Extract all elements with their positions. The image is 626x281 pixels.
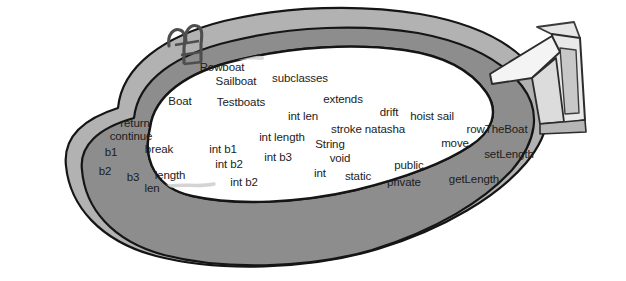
pool-word: int b2 xyxy=(215,159,243,171)
pool-word: break xyxy=(145,144,173,156)
pool-word: Boat xyxy=(168,96,191,108)
pool-word: continue xyxy=(110,131,153,143)
pool-word: Rowboat xyxy=(200,62,245,74)
pool-word: rowTheBoat xyxy=(466,124,527,136)
pool-word: private xyxy=(387,177,421,189)
pool-word: String xyxy=(315,139,344,151)
pool-word: stroke natasha xyxy=(331,124,405,136)
pool-word: extends xyxy=(323,94,363,106)
word-cloud: RowboatSailboatsubclassesBoatTestboatsex… xyxy=(0,0,626,281)
pool-word: getLength xyxy=(449,174,499,186)
pool-word: public xyxy=(394,160,423,172)
pool-word: hoist sail xyxy=(410,111,454,123)
pool-scene: RowboatSailboatsubclassesBoatTestboatsex… xyxy=(0,0,626,281)
pool-word: Sailboat xyxy=(216,76,257,88)
pool-word: int b2 xyxy=(230,177,258,189)
pool-word: Testboats xyxy=(217,97,265,109)
pool-word: void xyxy=(330,153,351,165)
pool-word: return xyxy=(120,118,149,130)
pool-word: int b1 xyxy=(209,144,237,156)
pool-word: int len xyxy=(288,111,318,123)
pool-word: length xyxy=(155,170,186,182)
pool-word: int length xyxy=(259,132,305,144)
pool-word: drift xyxy=(380,107,399,119)
pool-word: len xyxy=(144,183,159,195)
pool-word: static xyxy=(345,171,371,183)
pool-word: b1 xyxy=(105,147,118,159)
pool-word: subclasses xyxy=(272,73,328,85)
pool-word: int xyxy=(314,168,326,180)
pool-word: b3 xyxy=(127,172,140,184)
pool-word: setLength xyxy=(484,149,534,161)
pool-word: move xyxy=(441,138,469,150)
pool-word: b2 xyxy=(99,166,112,178)
pool-word: int b3 xyxy=(264,152,292,164)
